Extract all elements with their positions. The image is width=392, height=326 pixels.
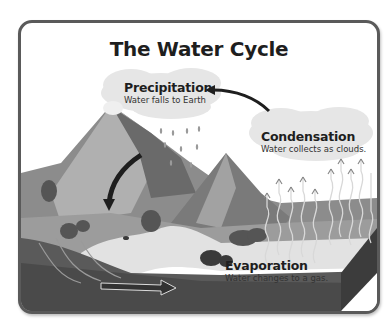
evaporation-label: Evaporation Water changes to a gas. [225, 259, 328, 283]
condensation-description: Water collects as clouds. [261, 144, 366, 154]
diagram-frame: The Water Cycle Precipitation Water fall… [18, 20, 380, 314]
precipitation-label: Precipitation Water falls to Earth [124, 81, 212, 105]
diagram-title: The Water Cycle [21, 37, 377, 61]
evaporation-description: Water changes to a gas. [225, 273, 328, 283]
condensation-label: Condensation Water collects as clouds. [261, 130, 366, 154]
precipitation-heading: Precipitation [124, 81, 212, 95]
snow-cap [103, 101, 123, 115]
condensation-heading: Condensation [261, 130, 366, 144]
evaporation-heading: Evaporation [225, 259, 328, 273]
precipitation-description: Water falls to Earth [124, 95, 212, 105]
